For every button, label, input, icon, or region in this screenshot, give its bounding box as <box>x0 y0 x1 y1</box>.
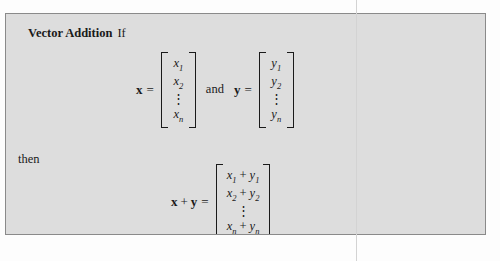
definition-title: Vector AdditionIf <box>28 26 126 41</box>
matrix-row: y1 <box>271 55 281 73</box>
matrix-row-vdots: ⋮ <box>237 204 250 218</box>
matrix-row: x1+y1 <box>227 167 260 185</box>
y-definition-lhs: y = <box>234 82 257 98</box>
vector-sum-matrix: x1+y1 x2+y2 ⋮ xn+yn <box>216 164 271 235</box>
sum-lhs: x + y = <box>171 194 214 210</box>
plus-sign: + <box>181 194 188 210</box>
right-bracket-icon <box>263 164 270 235</box>
then-word: then <box>18 152 40 167</box>
definition-term: Vector Addition <box>28 26 112 40</box>
vector-x-entries: x1 x2 ⋮ xn <box>168 52 189 128</box>
result-equation-row: x + y = x1+y1 x2+y2 ⋮ xn+yn <box>171 164 270 235</box>
matrix-row: yn <box>271 106 281 124</box>
page-scan-rule <box>356 0 357 261</box>
vector-y-label: y <box>234 82 241 98</box>
definition-conjunction: If <box>117 26 125 40</box>
left-bracket-icon <box>161 52 168 128</box>
matrix-row: x2+y2 <box>227 185 260 203</box>
vector-x-label: x <box>136 82 143 98</box>
matrix-row-vdots: ⋮ <box>172 92 185 106</box>
vector-x-matrix: x1 x2 ⋮ xn <box>161 52 196 128</box>
right-bracket-icon <box>287 52 294 128</box>
matrix-row: x1 <box>173 55 183 73</box>
equals-sign-y: = <box>244 82 251 98</box>
equals-sign-sum: = <box>201 194 208 210</box>
and-conjunction: and <box>206 82 224 97</box>
matrix-row: y2 <box>271 73 281 91</box>
vector-y-label: y <box>191 194 198 210</box>
left-bracket-icon <box>259 52 266 128</box>
x-definition-lhs: x = <box>136 82 159 98</box>
matrix-row: xn <box>173 106 183 124</box>
vector-x-label: x <box>171 194 178 210</box>
vector-y-entries: y1 y2 ⋮ yn <box>266 52 287 128</box>
premise-equation-row: x = x1 x2 ⋮ xn and y = y1 y2 ⋮ yn <box>136 52 294 128</box>
vector-y-matrix: y1 y2 ⋮ yn <box>259 52 294 128</box>
matrix-row: x2 <box>173 73 183 91</box>
definition-box: Vector AdditionIf x = x1 x2 ⋮ xn and y = <box>5 13 486 235</box>
matrix-row-vdots: ⋮ <box>270 92 283 106</box>
matrix-row: xn+yn <box>227 218 260 235</box>
right-bracket-icon <box>189 52 196 128</box>
left-bracket-icon <box>216 164 223 235</box>
equals-sign-x: = <box>147 82 154 98</box>
vector-sum-entries: x1+y1 x2+y2 ⋮ xn+yn <box>223 164 264 235</box>
